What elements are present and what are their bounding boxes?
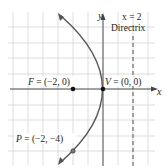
y-axis-label: y <box>97 10 103 21</box>
x-axis-label: x <box>156 86 162 97</box>
focus-label: F = (−2, 0) <box>26 76 81 88</box>
svg-text:V = (0, 0): V = (0, 0) <box>105 77 142 88</box>
parabola-diagram: y x x = 2 Directrix F = (−2, 0) V = (0, … <box>0 0 168 168</box>
directrix-equation: x = 2 <box>122 12 142 22</box>
x-axis <box>10 87 158 92</box>
point-p <box>71 149 75 153</box>
vertex-label: V = (0, 0) <box>104 76 152 88</box>
svg-text:F = (−2, 0): F = (−2, 0) <box>27 77 70 88</box>
vertex-point <box>101 87 106 92</box>
svg-text:P = (−2, −4): P = (−2, −4) <box>15 134 63 145</box>
directrix-label: Directrix <box>111 23 146 33</box>
arrow-top-icon <box>58 13 64 21</box>
focus-point <box>71 87 76 92</box>
point-p-label: P = (−2, −4) <box>15 133 77 145</box>
arrow-bottom-icon <box>58 157 64 165</box>
